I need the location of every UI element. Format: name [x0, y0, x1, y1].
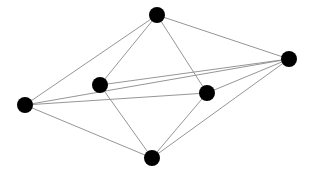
- graph-svg: [0, 0, 312, 178]
- graph-node-right[interactable]: [281, 51, 297, 67]
- graph-node-middle-left[interactable]: [92, 77, 108, 93]
- graph-node-left[interactable]: [17, 97, 33, 113]
- graph-node-middle-right[interactable]: [199, 85, 215, 101]
- graph-node-top[interactable]: [149, 7, 165, 23]
- graph-node-bottom[interactable]: [144, 150, 160, 166]
- graph-diagram-canvas: [0, 0, 312, 178]
